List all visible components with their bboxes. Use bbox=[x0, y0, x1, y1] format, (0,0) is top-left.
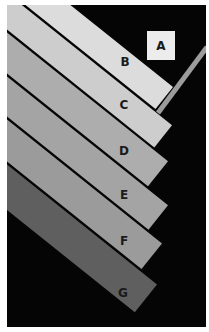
label-d: D bbox=[119, 144, 129, 158]
label-e: E bbox=[120, 188, 128, 202]
label-f: F bbox=[120, 234, 128, 248]
label-g: G bbox=[118, 286, 128, 300]
figure-canvas: A B C D E F G bbox=[0, 0, 209, 332]
label-c: C bbox=[120, 98, 129, 112]
gray-strips-figure: A B C D E F G bbox=[0, 0, 209, 332]
label-a: A bbox=[156, 39, 166, 53]
label-b: B bbox=[120, 55, 129, 69]
